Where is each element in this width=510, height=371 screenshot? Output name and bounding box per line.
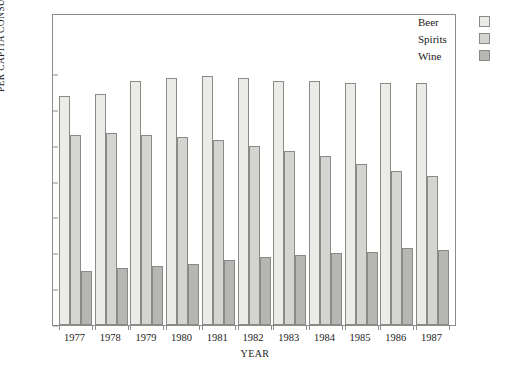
y-tick-mark [53, 290, 58, 291]
x-tick-mark [202, 325, 203, 330]
bar-group [130, 15, 163, 325]
legend-swatch-wine [479, 50, 490, 61]
bar-beer-1981 [202, 76, 213, 325]
x-tick-label: 1987 [421, 332, 442, 343]
x-tick-label: 1981 [207, 332, 228, 343]
bar-spirits-1985 [356, 164, 367, 325]
y-tick-mark [53, 182, 58, 183]
x-tick-label: 1977 [64, 332, 85, 343]
x-tick-label: 1979 [135, 332, 156, 343]
x-tick-mark [166, 325, 167, 330]
x-tick-mark [163, 325, 164, 330]
x-tick-mark [128, 325, 129, 330]
bar-beer-1978 [95, 94, 106, 325]
x-tick-mark [309, 325, 310, 330]
bar-spirits-1981 [213, 140, 224, 325]
legend-item-spirits: Spirits [418, 31, 490, 46]
x-tick-mark [92, 325, 93, 330]
y-tick-mark [53, 110, 58, 111]
bar-wine-1985 [367, 252, 378, 326]
x-tick-mark [380, 325, 381, 330]
bar-beer-1984 [309, 81, 320, 325]
legend: BeerSpiritsWine [418, 14, 490, 63]
x-tick-label: 1980 [171, 332, 192, 343]
x-tick-mark [59, 325, 60, 330]
bar-group [380, 15, 413, 325]
legend-label: Beer [418, 16, 439, 28]
bar-spirits-1978 [106, 133, 117, 325]
bar-spirits-1980 [177, 137, 188, 325]
bar-wine-1987 [438, 250, 449, 325]
x-tick-mark [235, 325, 236, 330]
x-tick-mark [95, 325, 96, 330]
legend-label: Wine [418, 50, 441, 62]
bar-group [238, 15, 271, 325]
legend-swatch-spirits [479, 33, 490, 44]
bar-spirits-1984 [320, 156, 331, 325]
x-tick-mark [273, 325, 274, 330]
x-tick-mark [306, 325, 307, 330]
legend-label: Spirits [418, 33, 447, 45]
plot-frame [52, 14, 456, 326]
bar-wine-1978 [117, 268, 128, 325]
bar-wine-1977 [81, 271, 92, 325]
bar-beer-1979 [130, 81, 141, 325]
legend-swatch-beer [479, 16, 490, 27]
bar-beer-1987 [416, 83, 427, 325]
bar-spirits-1987 [427, 176, 438, 325]
plot-area [53, 15, 455, 325]
bar-group [166, 15, 199, 325]
bar-group [309, 15, 342, 325]
x-tick-mark [342, 325, 343, 330]
bar-beer-1985 [345, 83, 356, 325]
bar-wine-1986 [402, 248, 413, 325]
bar-spirits-1982 [249, 146, 260, 325]
bar-wine-1984 [331, 253, 342, 325]
bar-spirits-1986 [391, 171, 402, 325]
x-tick-label: 1983 [278, 332, 299, 343]
bar-group [273, 15, 306, 325]
bar-beer-1977 [59, 96, 70, 325]
y-tick-mark [53, 75, 58, 76]
legend-item-beer: Beer [418, 14, 490, 29]
bar-wine-1980 [188, 264, 199, 325]
bar-group [202, 15, 235, 325]
x-tick-mark [449, 325, 450, 330]
bar-spirits-1979 [141, 135, 152, 325]
x-axis-title: YEAR [0, 348, 510, 359]
x-tick-label: 1984 [314, 332, 335, 343]
bar-beer-1980 [166, 78, 177, 325]
bar-beer-1983 [273, 81, 284, 325]
bar-beer-1982 [238, 78, 249, 325]
bar-spirits-1983 [284, 151, 295, 325]
x-tick-label: 1982 [243, 332, 264, 343]
bar-wine-1981 [224, 260, 235, 325]
y-tick-mark [53, 326, 58, 327]
bar-group [345, 15, 378, 325]
x-tick-mark [271, 325, 272, 330]
bar-wine-1983 [295, 255, 306, 325]
y-tick-mark [53, 218, 58, 219]
x-tick-mark [416, 325, 417, 330]
x-tick-label: 1985 [350, 332, 371, 343]
x-tick-mark [378, 325, 379, 330]
y-tick-mark [53, 146, 58, 147]
y-axis-title: PER CAPITA CONSUMPTION (GALLONS) [0, 0, 6, 92]
x-tick-mark [345, 325, 346, 330]
x-tick-label: 1978 [100, 332, 121, 343]
x-tick-mark [199, 325, 200, 330]
legend-item-wine: Wine [418, 48, 490, 63]
bar-group [59, 15, 92, 325]
x-tick-mark [238, 325, 239, 330]
x-tick-label: 1986 [385, 332, 406, 343]
bar-wine-1979 [152, 266, 163, 325]
x-tick-mark [130, 325, 131, 330]
y-tick-mark [53, 254, 58, 255]
bar-group [95, 15, 128, 325]
bar-wine-1982 [260, 257, 271, 325]
bar-chart: PER CAPITA CONSUMPTION (GALLONS) 0.00.20… [0, 0, 510, 371]
bar-beer-1986 [380, 83, 391, 325]
bar-spirits-1977 [70, 135, 81, 325]
x-tick-mark [413, 325, 414, 330]
